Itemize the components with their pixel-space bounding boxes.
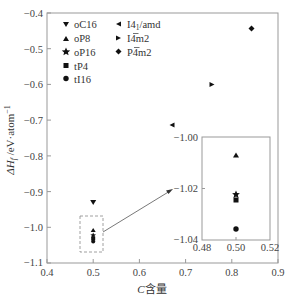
square-icon	[234, 198, 239, 203]
circle-icon	[233, 226, 238, 231]
legend-label-I4bar-m2: I4m2	[127, 33, 149, 44]
y-axis-label-delta: ΔH	[4, 159, 16, 175]
y-axis-label-sup: −1	[3, 105, 12, 114]
square-icon	[64, 63, 69, 68]
legend-label-tP4: tP4	[74, 61, 89, 72]
y-axis-label: ΔHf /eV·atom−1	[3, 105, 18, 175]
triangle-up-icon	[63, 36, 69, 41]
x-tick-label: 0.5	[87, 267, 100, 278]
triangle-right-icon	[116, 36, 121, 41]
circle-icon	[63, 76, 68, 81]
legend: oC16 oP8 oP16 tP4 tI16 I41/amd I4m2 P4m2	[62, 19, 161, 85]
legend-label-P4bar-m2: P4m2	[127, 47, 152, 58]
x-tick-label: 0.9	[271, 267, 284, 278]
legend-label-I41-amd: I41/amd	[127, 19, 161, 32]
triangle-left-icon	[170, 123, 175, 128]
inset-y-tick-label: −1.00	[174, 132, 198, 143]
diamond-icon	[249, 26, 255, 32]
x-tick-label: 0.6	[133, 267, 146, 278]
star-icon	[62, 48, 70, 56]
triangle-up-icon	[91, 228, 96, 232]
inset-x-tick-label: 0.52	[261, 242, 279, 253]
legend-label-oP16: oP16	[74, 47, 96, 58]
x-tick-label: 0.4	[40, 267, 54, 278]
y-tick-label: −0.8	[24, 151, 43, 162]
legend-label-oC16: oC16	[74, 19, 97, 30]
triangle-down-icon	[90, 200, 96, 205]
inset-frame	[202, 137, 270, 240]
x-axis-label: C含量	[137, 282, 166, 295]
y-axis-tick-labels: −0.4 −0.5 −0.6 −0.7 −0.8 −0.9 −1.0 −1.1	[24, 8, 44, 268]
legend-label-part: P4	[127, 47, 139, 58]
y-tick-label: −0.4	[24, 8, 44, 19]
legend-label-part: m2	[136, 33, 149, 44]
inset-plot: −1.00 −1.02 −1.04 0.48 0.50 0.52	[174, 132, 279, 253]
inset-y-tick-label: −1.02	[174, 183, 198, 194]
legend-label-part: /amd	[140, 19, 162, 30]
x-tick-label: 0.7	[179, 267, 192, 278]
y-tick-label: −1.0	[24, 222, 43, 233]
x-tick-label: 0.8	[225, 267, 238, 278]
inset-x-tick-label: 0.50	[227, 242, 245, 253]
legend-label-oP8: oP8	[74, 33, 90, 44]
chart-canvas: −0.4 −0.5 −0.6 −0.7 −0.8 −0.9 −1.0 −1.1 …	[0, 0, 292, 299]
circle-icon	[91, 240, 95, 244]
x-axis-label-text: 含量	[145, 282, 167, 295]
y-tick-label: −0.5	[24, 44, 43, 55]
y-tick-label: −0.9	[24, 187, 43, 198]
triangle-left-icon	[116, 22, 121, 27]
y-axis-ticks	[47, 13, 51, 263]
x-axis-tick-labels: 0.4 0.5 0.6 0.7 0.8 0.9	[40, 267, 284, 278]
y-tick-label: −0.6	[24, 79, 43, 90]
diamond-icon	[116, 49, 122, 55]
inset-x-tick-label: 0.48	[193, 242, 211, 253]
triangle-right-icon	[210, 82, 215, 87]
x-axis-ticks	[47, 259, 278, 263]
triangle-down-icon	[63, 22, 69, 27]
legend-label-tI16: tI16	[74, 74, 91, 85]
zoom-arrow	[103, 189, 173, 232]
y-tick-label: −0.7	[24, 115, 43, 126]
zoom-region-box	[80, 216, 103, 252]
y-axis-label-unit: /eV·atom	[4, 113, 16, 158]
legend-label-part: m2	[138, 47, 151, 58]
